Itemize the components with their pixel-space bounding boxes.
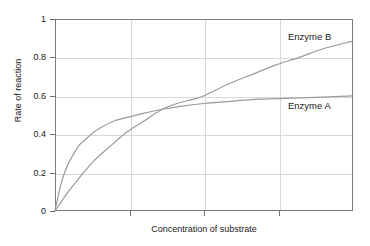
y-axis-title: Rate of reaction [14,51,23,131]
y-axis-tick-label: 0.8 [33,53,46,62]
y-axis-tick [50,96,55,97]
y-axis-tick [50,173,55,174]
curve-enzyme-b [55,41,353,211]
x-axis-tick [279,211,280,216]
x-axis-tick [130,211,131,216]
y-axis-tick-label: 0 [41,207,46,216]
y-axis-tick [50,211,55,212]
y-axis-tick-label: 0.6 [33,92,46,101]
curve-layer [55,19,353,211]
y-axis-tick-label: 0.4 [33,130,46,139]
series-label-enzyme-a: Enzyme A [288,101,331,111]
chart-figure: Rate of reaction Concentration of substr… [0,0,370,246]
y-axis-tick [50,57,55,58]
y-axis-tick-label: 0.2 [33,169,46,178]
y-axis-tick [50,134,55,135]
x-axis-title: Concentration of substrate [55,224,353,234]
y-axis-tick-label: 1 [41,15,46,24]
y-axis-tick [50,19,55,20]
curve-enzyme-a [55,96,353,211]
series-label-enzyme-b: Enzyme B [288,32,331,42]
x-axis-tick [204,211,205,216]
